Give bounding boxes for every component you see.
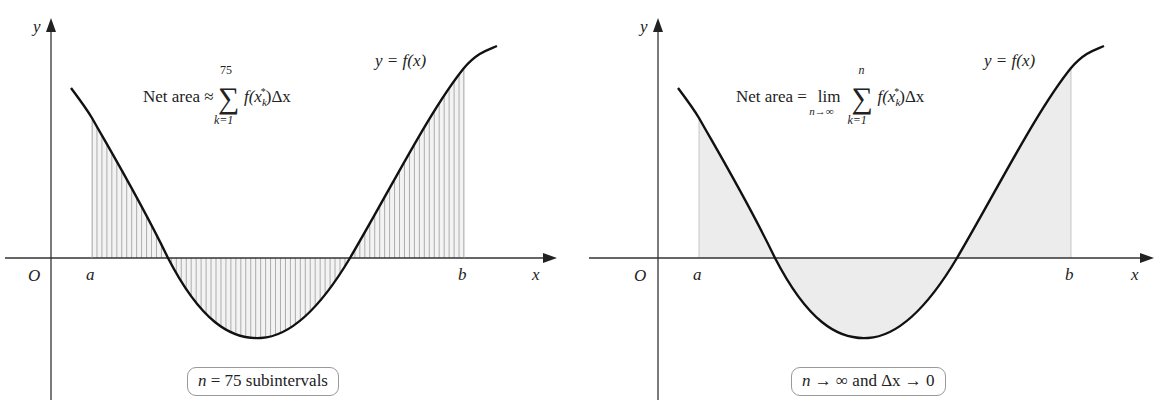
x-axis-label: x xyxy=(532,266,540,283)
region-fill xyxy=(92,68,464,338)
net-area-limit-formula: Net area = limn→∞ ∑ n k=1 f(xk*)Δx xyxy=(736,87,924,108)
x-axis-label: x xyxy=(1131,266,1139,283)
limit-callout: n → ∞ and Δx → 0 xyxy=(791,367,946,396)
origin-label: O xyxy=(28,267,40,284)
limit-plot xyxy=(579,0,1158,418)
x-axis-arrow xyxy=(1140,253,1154,263)
curve-label: y = f(x) xyxy=(375,52,426,69)
b-label: b xyxy=(458,266,467,283)
definite-integral-panel: y x O a b y = f(x) Net area = limn→∞ ∑ n… xyxy=(579,0,1158,418)
y-axis-label: y xyxy=(33,18,41,35)
y-axis-label: y xyxy=(640,18,648,35)
summation: ∑ 75 k=1 xyxy=(218,88,244,108)
y-axis-arrow xyxy=(46,18,56,32)
curve-label: y = f(x) xyxy=(984,52,1035,69)
a-label: a xyxy=(86,266,95,283)
limit: limn→∞ xyxy=(811,88,847,105)
y-axis-arrow xyxy=(653,18,663,32)
a-label: a xyxy=(693,266,702,283)
x-axis-arrow xyxy=(543,253,557,263)
net-area-approx-formula: Net area ≈ ∑ 75 k=1 f(xk*)Δx xyxy=(143,87,291,108)
riemann-sum-panel: (function(){ var g = document.currentScr… xyxy=(0,0,579,418)
riemann-sum-plot: (function(){ var g = document.currentScr… xyxy=(0,0,579,418)
b-label: b xyxy=(1065,266,1074,283)
region-fill xyxy=(699,68,1071,338)
summation: ∑ n k=1 xyxy=(851,88,877,108)
subintervals-callout: n = 75 subintervals xyxy=(187,367,339,396)
origin-label: O xyxy=(634,267,646,284)
